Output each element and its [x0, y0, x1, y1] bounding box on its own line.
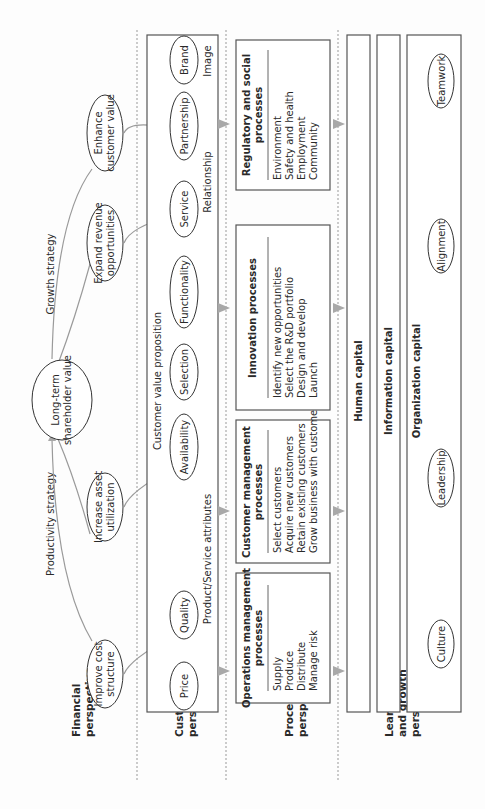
expand-revenue-opportunities: Expand revenueopportunities [87, 202, 123, 284]
triangle-up-icon [333, 303, 345, 313]
svg-text:Teamwork: Teamwork [436, 55, 447, 107]
enhance-customer-value: Enhancecustomer value [87, 94, 123, 172]
increase-asset-utilization: Increase assetutilization [87, 471, 123, 543]
attribute-brand: Brand [170, 36, 198, 84]
process-box-innovation: Innovation processes Identify new opport… [236, 225, 330, 410]
triangle-up-icon [218, 506, 230, 516]
attribute-service: Service [170, 181, 198, 237]
process-box-regulatory-social: Regulatory and socialprocesses Environme… [236, 40, 330, 190]
svg-text:Alignment: Alignment [436, 220, 447, 271]
attribute-price: Price [170, 662, 198, 710]
customer-value-proposition-label: Customer value proposition [152, 312, 163, 450]
organization-capital-box: Organization capital Culture Leadership … [407, 35, 461, 712]
improve-cost-structure: Improve coststructure [87, 640, 123, 708]
human-capital-bar: Human capital [347, 35, 370, 712]
svg-text:Information capital: Information capital [383, 327, 394, 435]
svg-text:Organization capital: Organization capital [411, 324, 422, 438]
information-capital-bar: Information capital [377, 35, 400, 712]
triangle-up-icon [333, 666, 345, 676]
attribute-selection: Selection [170, 344, 198, 400]
attribute-availability: Availability [170, 414, 198, 480]
triangle-up-icon [218, 666, 230, 676]
svg-text:Culture: Culture [436, 626, 447, 662]
svg-text:Innovation processes: Innovation processes [247, 258, 258, 378]
svg-text:Selection: Selection [179, 349, 190, 395]
arrow-expand-revenue-to-long-term [58, 264, 90, 364]
image-label: Image [202, 45, 213, 76]
org-item-alignment: Alignment [428, 219, 454, 273]
triangle-up-icon [218, 303, 230, 313]
svg-text:Brand: Brand [179, 45, 190, 75]
svg-text:Expand revenueopportunities: Expand revenueopportunities [93, 202, 116, 284]
svg-text:Functionality: Functionality [179, 260, 190, 324]
process-box-operations: Operations managementprocesses SupplyPro… [236, 568, 330, 708]
org-item-leadership: Leadership [428, 449, 454, 507]
svg-text:Availability: Availability [179, 420, 190, 475]
svg-text:Price: Price [179, 674, 190, 698]
org-item-teamwork: Teamwork [428, 54, 454, 108]
process-box-customer-management: Customer managementprocesses Select cust… [236, 400, 330, 563]
attribute-partnership: Partnership [170, 92, 198, 160]
strategy-map: Financialperspective Customerperspective… [0, 0, 485, 809]
arrow-increase-asset-to-long-term [58, 439, 90, 534]
relationship-label: Relationship [202, 151, 213, 212]
arrow-improve-cost-to-long-term [52, 439, 92, 641]
long-term-shareholder-value: Long-termshareholder value [32, 355, 92, 445]
attribute-functionality: Functionality [170, 256, 198, 328]
triangle-up-icon [333, 119, 345, 129]
triangle-up-icon [218, 119, 230, 129]
strategy-map-content: Financialperspective Customerperspective… [32, 30, 461, 780]
svg-text:Leadership: Leadership [436, 451, 447, 506]
product-service-attributes-label: Product/Service attributes [202, 494, 213, 624]
attribute-quality: Quality [170, 591, 198, 639]
svg-text:Partnership: Partnership [179, 97, 190, 154]
svg-text:Service: Service [179, 191, 190, 228]
arrow-enhance-customer-to-long-term [52, 169, 92, 359]
svg-text:Human capital: Human capital [353, 340, 364, 421]
org-item-culture: Culture [428, 620, 454, 668]
triangle-up-icon [333, 506, 345, 516]
svg-text:Quality: Quality [179, 597, 190, 633]
